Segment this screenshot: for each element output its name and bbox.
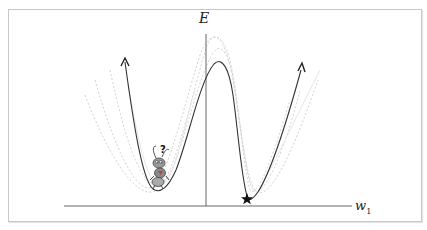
ghost-curves: [85, 37, 318, 193]
question-mark: ?: [160, 144, 166, 155]
x-axis-label: w1: [355, 198, 371, 216]
x-axis-label-subscript: 1: [366, 207, 371, 216]
x-axis-label-base: w: [355, 198, 366, 213]
energy-plot: ?: [0, 0, 427, 230]
y-axis-label: E: [199, 10, 209, 26]
right-arrow-icon: [298, 63, 305, 72]
star-icon: [241, 193, 253, 204]
